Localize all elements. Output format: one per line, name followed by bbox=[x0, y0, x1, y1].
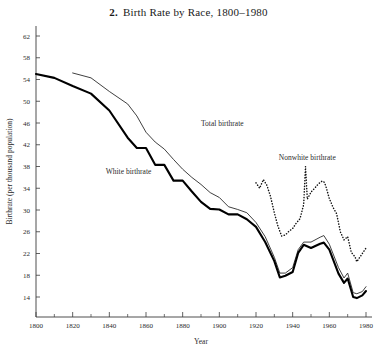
series-label-nonwhite-birthrate: Nonwhite birthrate bbox=[279, 153, 337, 162]
x-axis-ticks: 1800182018401860188019001920194019601980 bbox=[29, 312, 374, 330]
x-tick-label: 1860 bbox=[139, 322, 154, 330]
x-tick-label: 1900 bbox=[212, 322, 227, 330]
x-tick-label: 1880 bbox=[176, 322, 191, 330]
data-series-group bbox=[36, 73, 366, 298]
series-line-white-birthrate bbox=[36, 74, 366, 298]
x-tick-label: 1940 bbox=[286, 322, 301, 330]
y-tick-label: 54 bbox=[23, 76, 31, 84]
y-tick-label: 30 bbox=[23, 207, 31, 215]
y-tick-label: 50 bbox=[23, 98, 31, 106]
x-tick-label: 1840 bbox=[102, 322, 117, 330]
y-tick-label: 38 bbox=[23, 163, 31, 171]
chart-figure: 2.Birth Rate by Race, 1800–1980 14182226… bbox=[0, 0, 377, 352]
y-axis-ticks: 14182226303438424650545862 bbox=[23, 33, 40, 302]
y-tick-label: 34 bbox=[23, 185, 31, 193]
y-tick-label: 26 bbox=[23, 228, 31, 236]
y-tick-label: 14 bbox=[23, 294, 31, 302]
y-axis-title: Birthrate (per thousand population) bbox=[5, 118, 14, 225]
y-tick-label: 58 bbox=[23, 54, 31, 62]
chart-plot-area: 14182226303438424650545862 1800182018401… bbox=[0, 0, 377, 352]
x-tick-label: 1800 bbox=[29, 322, 44, 330]
x-tick-label: 1820 bbox=[66, 322, 81, 330]
series-label-total-birthrate: Total birthrate bbox=[201, 119, 244, 128]
x-axis-title: Year bbox=[194, 337, 208, 346]
axis-lines bbox=[36, 26, 372, 317]
y-tick-label: 18 bbox=[23, 272, 31, 280]
y-tick-label: 46 bbox=[23, 120, 31, 128]
series-label-white-birthrate: White birthrate bbox=[106, 167, 152, 176]
y-tick-label: 22 bbox=[23, 250, 31, 258]
y-tick-label: 42 bbox=[23, 141, 31, 149]
x-tick-label: 1920 bbox=[249, 322, 264, 330]
x-tick-label: 1960 bbox=[322, 322, 337, 330]
series-line-total-birthrate bbox=[73, 73, 366, 294]
x-tick-label: 1980 bbox=[359, 322, 374, 330]
y-tick-label: 62 bbox=[23, 33, 31, 41]
